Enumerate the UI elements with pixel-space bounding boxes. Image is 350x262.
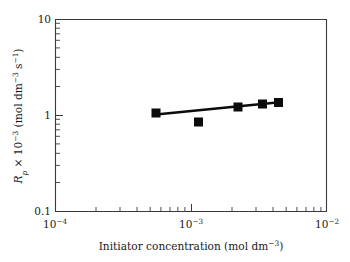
y-axis-unit-close: )	[12, 49, 24, 53]
scatter-plot-canvas: 10 1 0.1 10−4 10−3 10−2 Initiator concen…	[0, 0, 350, 262]
y-axis-title: Rp × 10−3 (mol dm−3 s−1)	[11, 49, 29, 185]
x-tick-label-1e-3: 10−3	[179, 217, 203, 231]
data-point-5[interactable]	[274, 98, 283, 107]
x-tick-base-1: 10	[43, 218, 56, 230]
x-tick-exp-1: −4	[56, 217, 67, 226]
x-axis-ticks	[56, 204, 327, 212]
data-point-1[interactable]	[152, 109, 161, 118]
x-tick-base-2: 10	[179, 218, 192, 230]
y-axis-symbol: R	[12, 176, 24, 185]
y-tick-label-1: 1	[44, 109, 51, 121]
plot-frame	[55, 19, 327, 212]
y-axis-unit-sup2: −1	[11, 53, 20, 64]
x-axis-title-main: Initiator concentration (mol dm	[99, 240, 269, 252]
x-axis-title-tail: )	[279, 240, 283, 252]
x-tick-base-3: 10	[315, 218, 328, 230]
y-tick-label-0-1: 0.1	[34, 205, 51, 217]
y-axis-unit-open: (mol dm	[12, 83, 24, 131]
y-axis-unit-mid: s	[12, 64, 24, 73]
y-axis-ticks	[56, 20, 64, 212]
y-tick-label-10: 10	[38, 13, 51, 25]
y-tick-labels: 10 1 0.1	[34, 13, 51, 217]
x-axis-title: Initiator concentration (mol dm−3)	[99, 239, 284, 253]
data-point-2[interactable]	[194, 118, 203, 127]
data-point-3[interactable]	[234, 103, 243, 112]
x-axis-title-sup: −3	[268, 239, 279, 248]
data-point-4[interactable]	[258, 100, 267, 109]
y-axis-unit-sup1: −3	[11, 72, 20, 83]
x-tick-exp-2: −3	[192, 217, 203, 226]
y-axis-exp: −3	[11, 130, 20, 141]
x-tick-label-1e-2: 10−2	[315, 217, 339, 231]
x-tick-exp-3: −2	[328, 217, 339, 226]
x-tick-labels: 10−4 10−3 10−2	[43, 217, 339, 231]
x-tick-label-1e-4: 10−4	[43, 217, 67, 231]
y-axis-times: × 10	[12, 141, 24, 170]
chart-figure: 10 1 0.1 10−4 10−3 10−2 Initiator concen…	[0, 0, 350, 262]
